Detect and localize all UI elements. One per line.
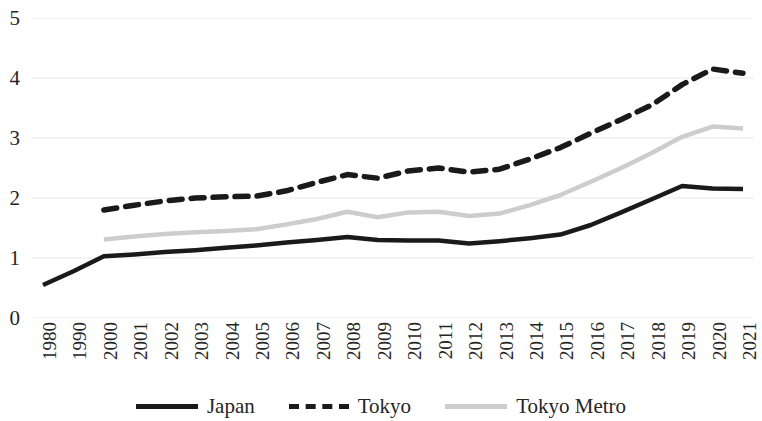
x-tick-label: 2005 bbox=[253, 322, 272, 360]
y-tick-label: 0 bbox=[10, 308, 21, 329]
legend-item-japan[interactable]: Japan bbox=[136, 396, 255, 417]
series-line-tokyo bbox=[104, 69, 743, 210]
x-tick-label: 2013 bbox=[497, 322, 516, 360]
plot-area bbox=[32, 18, 754, 318]
y-axis: 012345 bbox=[0, 0, 30, 336]
x-tick-label: 2009 bbox=[375, 322, 394, 360]
series-line-tokyo-metro bbox=[104, 127, 743, 240]
x-tick-label: 2002 bbox=[162, 322, 181, 360]
x-tick-label: 2007 bbox=[314, 322, 333, 360]
x-tick-label: 1980 bbox=[40, 322, 59, 360]
x-tick-label: 2006 bbox=[283, 322, 302, 360]
x-tick-label: 2015 bbox=[557, 322, 576, 360]
x-tick-label: 2010 bbox=[405, 322, 424, 360]
x-tick-label: 2004 bbox=[223, 322, 242, 360]
x-tick-label: 2021 bbox=[740, 322, 759, 360]
x-tick-label: 2000 bbox=[101, 322, 120, 360]
x-tick-label: 2011 bbox=[436, 322, 455, 359]
y-tick-label: 2 bbox=[10, 188, 21, 209]
legend-swatch-icon bbox=[289, 404, 349, 409]
y-tick-label: 3 bbox=[10, 128, 21, 149]
line-chart: 012345 198019902000200120022003200420052… bbox=[0, 0, 762, 421]
legend-label: Tokyo bbox=[358, 396, 411, 417]
legend-label: Tokyo Metro bbox=[516, 396, 626, 417]
x-tick-label: 2019 bbox=[679, 322, 698, 360]
x-tick-label: 2014 bbox=[527, 322, 546, 360]
legend-swatch-icon bbox=[445, 404, 507, 409]
x-tick-label: 2016 bbox=[588, 322, 607, 360]
x-axis: 1980199020002001200220032004200520062007… bbox=[32, 322, 754, 390]
series-lines bbox=[32, 18, 754, 318]
x-tick-label: 1990 bbox=[70, 322, 89, 360]
x-tick-label: 2008 bbox=[344, 322, 363, 360]
legend-item-tokyo[interactable]: Tokyo bbox=[289, 396, 411, 417]
x-tick-label: 2018 bbox=[649, 322, 668, 360]
legend-label: Japan bbox=[207, 396, 255, 417]
x-tick-label: 2003 bbox=[192, 322, 211, 360]
y-tick-label: 5 bbox=[10, 8, 21, 29]
y-tick-label: 1 bbox=[10, 248, 21, 269]
x-tick-label: 2020 bbox=[710, 322, 729, 360]
legend-item-tokyo-metro[interactable]: Tokyo Metro bbox=[445, 396, 626, 417]
chart-legend: JapanTokyoTokyo Metro bbox=[0, 392, 762, 421]
legend-swatch-icon bbox=[136, 404, 198, 409]
y-tick-label: 4 bbox=[10, 68, 21, 89]
x-tick-label: 2012 bbox=[466, 322, 485, 360]
x-tick-label: 2017 bbox=[618, 322, 637, 360]
x-tick-label: 2001 bbox=[131, 322, 150, 360]
